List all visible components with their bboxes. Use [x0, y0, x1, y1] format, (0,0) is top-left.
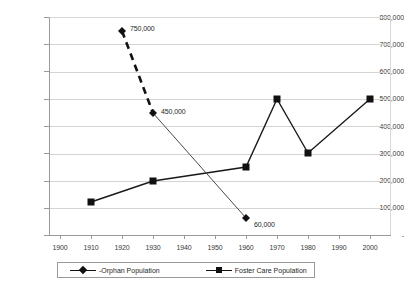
series-orphan-population: [118, 27, 250, 222]
data-point-marker: [150, 178, 157, 185]
legend-label: Foster Care Population: [235, 267, 307, 274]
series-line: [153, 113, 246, 218]
series-foster-care-population: [88, 96, 374, 206]
legend-item-orphan-population: -Orphan Population: [70, 266, 160, 275]
data-label-60000: 60,000: [254, 221, 275, 228]
legend-item-foster-care-population: Foster Care Population: [206, 266, 307, 275]
series-line-dashed: [122, 31, 153, 113]
square-marker-icon: [206, 266, 232, 275]
diamond-marker-icon: [70, 266, 96, 275]
data-label-450000: 450,000: [161, 108, 186, 115]
chart-legend: -Orphan Population Foster Care Populatio…: [57, 262, 315, 278]
data-point-marker: [367, 96, 374, 103]
legend-label: -Orphan Population: [99, 267, 160, 274]
data-point-marker: [88, 199, 95, 206]
line-chart: 800,000 700,000 600,000 500,000 400,000 …: [0, 0, 404, 289]
series-layer: [0, 0, 404, 289]
data-point-marker: [305, 150, 312, 157]
series-line: [91, 99, 370, 202]
data-point-marker: [243, 164, 250, 171]
data-point-marker: [274, 96, 281, 103]
data-point-marker: [118, 27, 126, 35]
data-label-750000: 750,000: [130, 25, 155, 32]
